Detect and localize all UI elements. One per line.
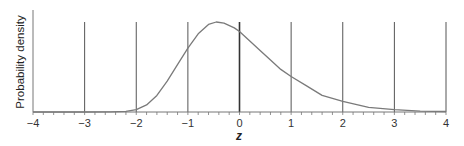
- x-tick-labels: −4−3−2−101234: [27, 117, 449, 129]
- x-tick-label: 0: [236, 117, 242, 129]
- x-tick-label: 4: [443, 117, 449, 129]
- x-tick-label: 3: [391, 117, 397, 129]
- x-tick-label: 1: [288, 117, 294, 129]
- density-chart: −4−3−2−101234 z Probability density: [0, 0, 464, 146]
- y-axis-title: Probability density: [14, 15, 26, 109]
- x-tick-label: −3: [78, 117, 91, 129]
- x-tick-label: −2: [130, 117, 143, 129]
- x-tick-label: −4: [27, 117, 40, 129]
- vertical-gridlines: [85, 22, 446, 112]
- x-axis-title: z: [235, 129, 242, 143]
- x-tick-label: 2: [340, 117, 346, 129]
- x-tick-label: −1: [182, 117, 195, 129]
